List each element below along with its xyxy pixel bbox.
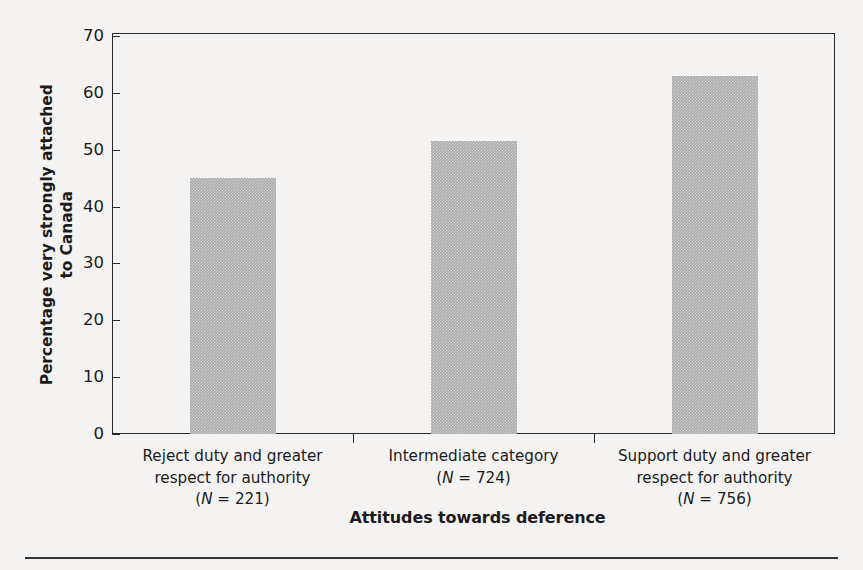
category-label: Intermediate category(N = 724) bbox=[353, 446, 594, 489]
y-axis-tick-mark bbox=[112, 434, 120, 435]
y-axis-tick-mark bbox=[112, 36, 120, 37]
y-axis-tick-mark bbox=[112, 150, 120, 151]
y-axis-tick-label: 50 bbox=[62, 140, 104, 159]
category-label-line: Support duty and greater bbox=[594, 446, 835, 468]
bottom-divider-rule bbox=[25, 557, 838, 559]
category-label: Support duty and greaterrespect for auth… bbox=[594, 446, 835, 511]
y-axis-tick-label: 70 bbox=[62, 26, 104, 45]
y-axis-tick-label: 20 bbox=[62, 310, 104, 329]
y-axis-tick-label: 0 bbox=[62, 424, 104, 443]
y-axis-tick-mark bbox=[112, 93, 120, 94]
y-axis-tick-label: 40 bbox=[62, 197, 104, 216]
y-axis-tick-mark bbox=[112, 320, 120, 321]
x-axis-title-text: Attitudes towards deference bbox=[349, 508, 605, 527]
y-axis-tick-label: 60 bbox=[62, 83, 104, 102]
category-label-line: respect for authority bbox=[594, 468, 835, 490]
bar bbox=[431, 141, 517, 434]
category-label-line: respect for authority bbox=[112, 468, 353, 490]
bar bbox=[672, 76, 758, 434]
y-axis-tick-mark bbox=[112, 377, 120, 378]
category-label-line: (N = 724) bbox=[353, 468, 594, 490]
y-axis-tick-label: 30 bbox=[62, 253, 104, 272]
y-axis-tick-label: 10 bbox=[62, 367, 104, 386]
category-label-line: Intermediate category bbox=[353, 446, 594, 468]
y-axis-tick-mark bbox=[112, 207, 120, 208]
bar-chart-figure: Percentage very strongly attached to Can… bbox=[0, 0, 863, 570]
category-label: Reject duty and greaterrespect for autho… bbox=[112, 446, 353, 511]
bar bbox=[190, 178, 276, 434]
y-axis-title-line-2: to Canada bbox=[58, 84, 78, 385]
x-axis-tick-mark bbox=[594, 434, 595, 443]
y-axis-tick-mark bbox=[112, 263, 120, 264]
y-axis-title-line-1: Percentage very strongly attached bbox=[38, 84, 58, 385]
category-label-line: Reject duty and greater bbox=[112, 446, 353, 468]
x-axis-title: Attitudes towards deference bbox=[0, 508, 863, 527]
x-axis-tick-mark bbox=[353, 434, 354, 443]
